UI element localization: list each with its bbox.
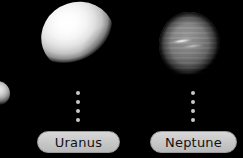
label-neptune[interactable]: Neptune — [150, 131, 237, 153]
neptune-bright-streak-secondary — [183, 43, 204, 49]
label-uranus[interactable]: Uranus — [37, 131, 120, 153]
leader-dot — [191, 100, 195, 104]
neptune-cloud-bands — [159, 12, 220, 77]
planet-uranus[interactable] — [32, 0, 124, 81]
leader-line-uranus — [74, 91, 81, 122]
leader-dot — [191, 118, 195, 122]
leader-dot — [191, 109, 195, 113]
leader-dot — [191, 91, 195, 95]
planet-comparison-scene: Uranus Neptune — [0, 0, 243, 158]
leader-dot — [76, 100, 80, 104]
planet-neptune[interactable] — [159, 12, 220, 77]
leader-dot — [76, 109, 80, 113]
leader-line-neptune — [189, 91, 196, 122]
neptune-bright-streak — [170, 37, 195, 45]
planet-partial-left — [0, 81, 10, 106]
leader-dot — [76, 91, 80, 95]
leader-dot — [76, 118, 80, 122]
